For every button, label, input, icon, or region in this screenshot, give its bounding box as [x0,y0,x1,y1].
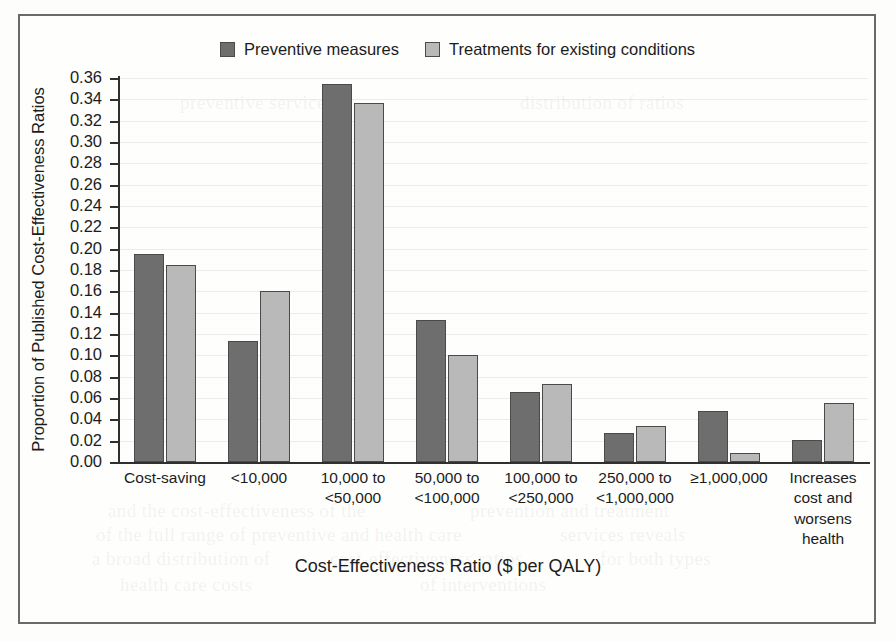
y-tick-label: 0.32 [46,112,102,129]
bar-preventive[interactable] [134,254,164,462]
x-axis-line [118,462,870,464]
y-tick-label: 0.10 [46,346,102,363]
y-tick-label: 0.14 [46,304,102,321]
y-tick-mark [110,377,118,379]
bar-preventive[interactable] [698,411,728,462]
y-tick-label: 0.16 [46,282,102,299]
x-tick-label-line: worsens [762,509,884,529]
bar-treatments[interactable] [448,355,478,462]
y-tick-mark [110,142,118,144]
y-tick-mark [110,121,118,123]
y-tick-mark [110,249,118,251]
y-tick-mark [110,355,118,357]
bar-treatments[interactable] [542,384,572,462]
bar-preventive[interactable] [228,341,258,462]
y-tick-mark [110,398,118,400]
y-tick-label: 0.34 [46,90,102,107]
bar-preventive[interactable] [322,84,352,462]
y-tick-label: 0.02 [46,432,102,449]
x-axis-title: Cost-Effectiveness Ratio ($ per QALY) [0,556,896,577]
y-tick-label: 0.26 [46,176,102,193]
bar-treatments[interactable] [354,103,384,462]
y-tick-mark [110,313,118,315]
x-tick-label-line: <1,000,000 [574,488,696,508]
bar-group [682,78,776,462]
x-tick-label-line: health [762,529,884,549]
y-tick-label: 0.06 [46,389,102,406]
chart-legend: Preventive measuresTreatments for existi… [220,40,695,59]
bar-treatments[interactable] [730,453,760,462]
y-tick-label: 0.36 [46,69,102,86]
x-tick-label: Increasescost andworsenshealth [762,468,884,550]
bar-groups [118,78,870,462]
x-tick-label-line: cost and [762,488,884,508]
legend-item-0[interactable]: Preventive measures [220,40,399,59]
y-tick-mark [110,270,118,272]
y-tick-mark [110,185,118,187]
y-tick-mark [110,441,118,443]
y-tick-label: 0.28 [46,154,102,171]
y-tick-label: 0.22 [46,218,102,235]
y-tick-mark [110,227,118,229]
y-tick-mark [110,78,118,80]
chart-canvas: Preventive measuresTreatments for existi… [0,0,896,642]
bar-preventive[interactable] [510,392,540,462]
bar-group [306,78,400,462]
bar-preventive[interactable] [604,433,634,462]
y-tick-mark [110,334,118,336]
y-tick-mark [110,206,118,208]
bar-treatments[interactable] [824,403,854,462]
y-tick-mark [110,462,118,464]
y-tick-mark [110,99,118,101]
legend-label-1: Treatments for existing conditions [449,40,695,59]
y-tick-mark [110,419,118,421]
y-tick-label: 0.08 [46,368,102,385]
bar-group [588,78,682,462]
bar-treatments[interactable] [636,426,666,462]
bar-group [776,78,870,462]
y-tick-mark [110,291,118,293]
y-axis-title: Proportion of Published Cost-Effectivene… [29,50,48,490]
y-tick-label: 0.00 [46,453,102,470]
bar-treatments[interactable] [260,291,290,462]
legend-label-0: Preventive measures [244,40,399,59]
legend-item-1[interactable]: Treatments for existing conditions [425,40,695,59]
bar-group [118,78,212,462]
y-tick-label: 0.18 [46,261,102,278]
y-tick-label: 0.24 [46,197,102,214]
bar-treatments[interactable] [166,265,196,462]
bar-preventive[interactable] [792,440,822,462]
y-tick-label: 0.12 [46,325,102,342]
legend-swatch-preventive [220,42,235,57]
legend-swatch-treatments [425,42,440,57]
bar-preventive[interactable] [416,320,446,462]
y-tick-label: 0.04 [46,410,102,427]
bar-group [212,78,306,462]
y-tick-label: 0.30 [46,133,102,150]
y-tick-mark [110,163,118,165]
bar-group [494,78,588,462]
y-tick-label: 0.20 [46,240,102,257]
x-tick-label-line: Increases [762,468,884,488]
bar-group [400,78,494,462]
